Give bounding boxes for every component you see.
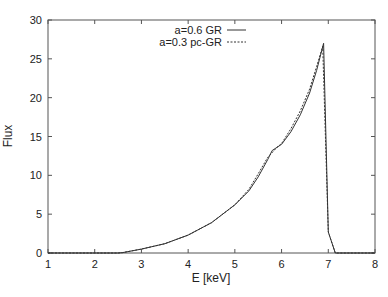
y-tick-label: 15: [30, 131, 42, 143]
y-tick-label: 25: [30, 53, 42, 65]
flux-vs-energy-chart: 12345678 051015202530 a=0.6 GRa=0.3 pc-G…: [0, 0, 388, 297]
legend: a=0.6 GRa=0.3 pc-GR: [159, 24, 246, 48]
x-tick-label: 2: [92, 258, 98, 270]
y-axis-label: Flux: [1, 125, 15, 148]
x-tick-label: 7: [325, 258, 331, 270]
y-tick-label: 10: [30, 169, 42, 181]
x-tick-label: 5: [232, 258, 238, 270]
x-tick-label: 4: [185, 258, 191, 270]
x-tick-label: 1: [45, 258, 51, 270]
x-axis-label: E [keV]: [192, 271, 231, 285]
y-tick-label: 30: [30, 14, 42, 26]
legend-label: a=0.3 pc-GR: [159, 36, 222, 48]
data-series: [48, 43, 375, 253]
y-tick-label: 5: [36, 208, 42, 220]
x-tick-label: 8: [372, 258, 378, 270]
legend-label: a=0.6 GR: [175, 24, 222, 36]
y-tick-label: 20: [30, 92, 42, 104]
y-tick-label: 0: [36, 247, 42, 259]
x-tick-label: 6: [279, 258, 285, 270]
x-tick-label: 3: [138, 258, 144, 270]
